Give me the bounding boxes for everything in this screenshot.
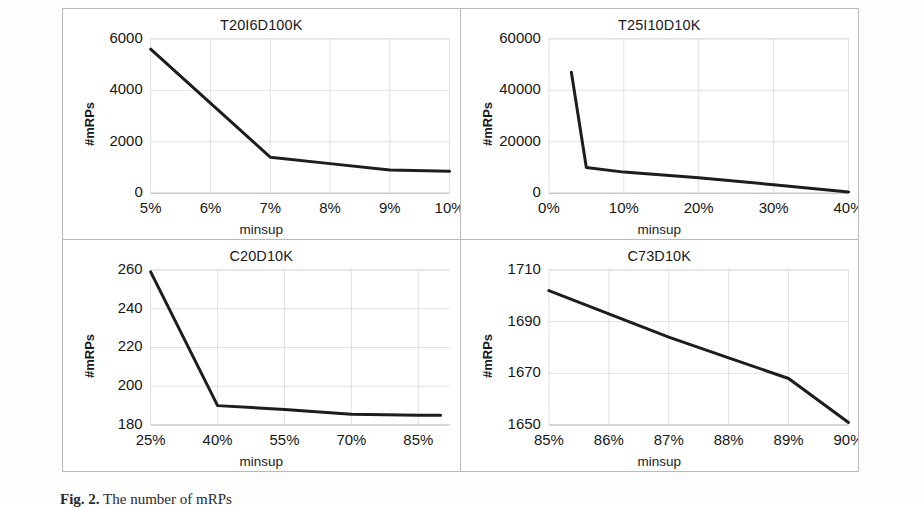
chart-panel-t20i6d100k: T20I6D100K #mRPs 02000400060005%6%7%8%9%… <box>63 9 461 240</box>
svg-text:1670: 1670 <box>507 363 540 380</box>
svg-text:240: 240 <box>118 299 143 316</box>
svg-text:5%: 5% <box>140 199 162 216</box>
svg-text:10%: 10% <box>435 199 460 216</box>
svg-text:7%: 7% <box>259 199 281 216</box>
svg-text:4000: 4000 <box>109 80 142 97</box>
chart-grid: T20I6D100K #mRPs 02000400060005%6%7%8%9%… <box>62 8 859 472</box>
plot-area: 165016701690171085%86%87%88%89%90% <box>461 240 859 471</box>
svg-text:10%: 10% <box>608 199 638 216</box>
figure-caption-number: Fig. 2. <box>60 491 100 507</box>
svg-text:85%: 85% <box>533 431 563 448</box>
svg-text:220: 220 <box>118 337 143 354</box>
x-axis-label: minsup <box>461 454 859 469</box>
figure-caption: Fig. 2. The number of mRPs <box>60 491 232 508</box>
svg-text:6000: 6000 <box>109 29 142 46</box>
svg-text:1710: 1710 <box>507 260 540 277</box>
x-axis-label: minsup <box>63 222 460 237</box>
svg-text:40%: 40% <box>203 431 233 448</box>
svg-text:1690: 1690 <box>507 312 540 329</box>
svg-text:180: 180 <box>118 415 143 432</box>
svg-text:89%: 89% <box>773 431 803 448</box>
plot-area: 02000040000600000%10%20%30%40% <box>461 9 859 239</box>
plot-area: 18020022024026025%40%55%70%85% <box>63 240 460 471</box>
x-axis-label: minsup <box>461 222 859 237</box>
svg-text:20%: 20% <box>683 199 713 216</box>
x-axis-label: minsup <box>63 454 460 469</box>
plot-area: 02000400060005%6%7%8%9%10% <box>63 9 460 239</box>
svg-text:40000: 40000 <box>499 80 541 97</box>
svg-text:55%: 55% <box>270 431 300 448</box>
svg-text:20000: 20000 <box>499 132 541 149</box>
svg-text:70%: 70% <box>336 431 366 448</box>
svg-text:30%: 30% <box>758 199 788 216</box>
figure-caption-text: The number of mRPs <box>103 491 232 507</box>
chart-panel-t25i10d10k: T25I10D10K #mRPs 02000040000600000%10%20… <box>461 9 859 240</box>
svg-text:9%: 9% <box>379 199 401 216</box>
svg-text:90%: 90% <box>833 431 858 448</box>
svg-text:260: 260 <box>118 260 143 277</box>
svg-text:40%: 40% <box>833 199 858 216</box>
svg-text:200: 200 <box>118 376 143 393</box>
svg-text:25%: 25% <box>136 431 166 448</box>
chart-panel-c73d10k: C73D10K #mRPs 165016701690171085%86%87%8… <box>461 240 859 471</box>
svg-text:87%: 87% <box>653 431 683 448</box>
svg-text:0: 0 <box>532 183 540 200</box>
svg-text:6%: 6% <box>200 199 222 216</box>
svg-text:0: 0 <box>134 183 142 200</box>
svg-text:8%: 8% <box>319 199 341 216</box>
svg-text:2000: 2000 <box>109 132 142 149</box>
svg-text:88%: 88% <box>713 431 743 448</box>
svg-text:86%: 86% <box>593 431 623 448</box>
chart-panel-c20d10k: C20D10K #mRPs 18020022024026025%40%55%70… <box>63 240 461 471</box>
svg-text:85%: 85% <box>403 431 433 448</box>
svg-text:0%: 0% <box>538 199 560 216</box>
svg-text:1650: 1650 <box>507 415 540 432</box>
svg-text:60000: 60000 <box>499 29 541 46</box>
